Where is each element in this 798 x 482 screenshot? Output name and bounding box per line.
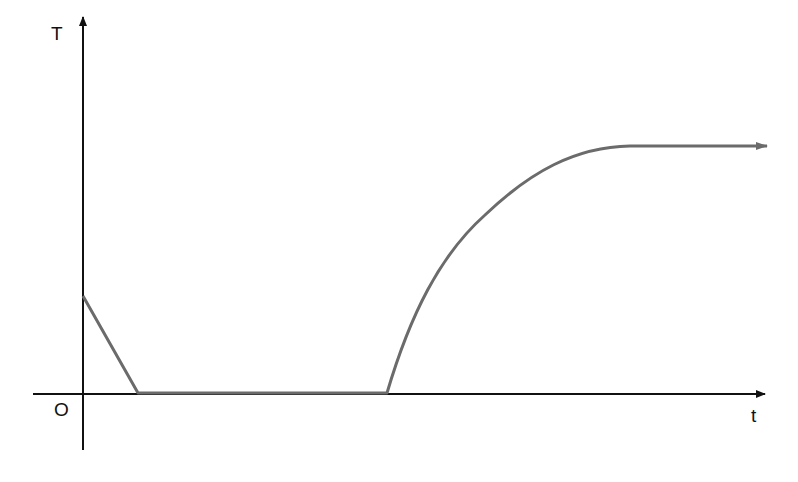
y-axis-label: T [51,23,63,44]
temperature-curve [83,146,767,393]
x-axis-label: t [751,405,757,426]
origin-label: O [54,399,69,420]
temperature-time-diagram: T O t [0,0,798,482]
